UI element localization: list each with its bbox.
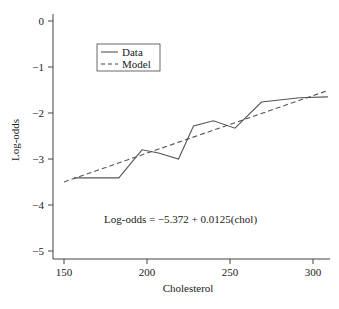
x-tick-label: 300 [305, 266, 322, 278]
x-tick-label: 150 [56, 266, 73, 278]
legend-data-label: Data [122, 46, 143, 58]
x-tick-label: 250 [222, 266, 239, 278]
x-tick-label: 200 [139, 266, 156, 278]
y-tick-label: 0 [39, 15, 45, 27]
axes: 0−1−2−3−4−5150200250300 [32, 14, 330, 278]
legend-model-label: Model [122, 58, 151, 70]
y-tick-label: −2 [32, 107, 44, 119]
plot-series [64, 91, 328, 182]
y-tick-label: −3 [32, 153, 44, 165]
y-tick-label: −1 [32, 61, 44, 73]
legend: Data Model [97, 44, 160, 71]
equation-annotation: Log-odds = −5.372 + 0.0125(chol) [104, 213, 257, 226]
y-tick-label: −4 [32, 199, 44, 211]
log-odds-chart: 0−1−2−3−4−5150200250300 Data Model Log-o… [0, 0, 339, 309]
y-tick-label: −5 [32, 245, 44, 257]
model-line [64, 91, 328, 182]
y-axis-label: Log-odds [9, 119, 21, 161]
x-axis-label: Cholesterol [163, 282, 214, 294]
